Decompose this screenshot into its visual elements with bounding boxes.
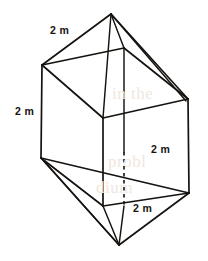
bottom-apex-to-back-edge xyxy=(119,206,124,245)
top-face-edges xyxy=(42,48,188,118)
left-vertical-edge xyxy=(41,65,42,158)
dimension-label-bottom-front: 2 m xyxy=(133,203,152,214)
dimension-label-right-diagonal: 2 m xyxy=(151,144,170,155)
solid-wireframe-svg xyxy=(0,0,208,261)
dimension-label-left-height: 2 m xyxy=(15,106,34,117)
dimension-label-top-left: 2 m xyxy=(50,25,69,36)
geometry-figure: in the probl dium 2 m 2 m 2 m 2 m xyxy=(0,0,208,261)
right-vertical-edge xyxy=(188,99,189,193)
apex-to-upper-back-edge xyxy=(111,14,124,48)
top-back-to-right-edge xyxy=(124,48,188,99)
bottom-apex-to-right-edge xyxy=(119,193,189,245)
top-left-to-front-edge xyxy=(42,65,103,118)
apex-to-upper-front-edge xyxy=(103,14,111,118)
bottom-apex-to-front-edge xyxy=(103,206,119,245)
top-front-to-right-edge xyxy=(103,99,188,118)
bottom-pyramid-edges xyxy=(41,158,189,245)
